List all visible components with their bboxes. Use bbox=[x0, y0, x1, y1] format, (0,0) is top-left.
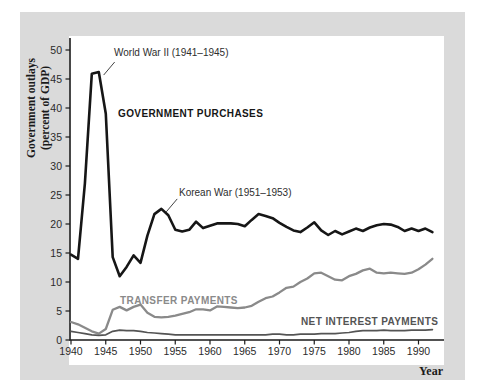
annotation-world-war-2: World War II (1941–1945) bbox=[114, 47, 229, 58]
annotation-korean-war: Korean War (1951–1953) bbox=[179, 187, 291, 198]
x-tick-label: 1980 bbox=[337, 345, 361, 357]
label-transfer-payments: TRANSFER PAYMENTS bbox=[120, 295, 238, 306]
chart-figure: 0510152025303540455019401945195019551960… bbox=[0, 0, 483, 392]
y-tick-label: 5 bbox=[56, 305, 62, 317]
x-tick-label: 1945 bbox=[94, 345, 118, 357]
x-tick-label: 1940 bbox=[59, 345, 83, 357]
label-government-purchases: GOVERNMENT PURCHASES bbox=[118, 108, 263, 119]
y-axis-title-line1: Government outlays bbox=[25, 28, 39, 188]
y-tick-label: 15 bbox=[50, 247, 62, 259]
y-tick-label: 20 bbox=[50, 218, 62, 230]
x-tick-label: 1985 bbox=[372, 345, 396, 357]
x-axis-title: Year bbox=[419, 364, 443, 379]
label-net-interest-payments: NET INTEREST PAYMENTS bbox=[301, 316, 438, 327]
x-tick-label: 1990 bbox=[407, 345, 431, 357]
x-tick-label: 1950 bbox=[129, 345, 153, 357]
y-axis-title-line2: (percent of GDP) bbox=[39, 28, 53, 188]
y-axis-title: Government outlays (percent of GDP) bbox=[25, 28, 53, 188]
x-tick-label: 1960 bbox=[198, 345, 222, 357]
y-tick-label: 0 bbox=[56, 334, 62, 346]
x-tick-label: 1955 bbox=[164, 345, 188, 357]
y-tick-label: 25 bbox=[50, 189, 62, 201]
x-tick-label: 1975 bbox=[303, 345, 327, 357]
x-tick-label: 1965 bbox=[233, 345, 257, 357]
x-tick-label: 1970 bbox=[268, 345, 292, 357]
y-tick-label: 10 bbox=[50, 276, 62, 288]
